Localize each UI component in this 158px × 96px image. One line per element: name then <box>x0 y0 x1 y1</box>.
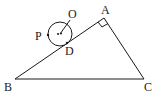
side-ab <box>15 18 104 79</box>
label-p: P <box>35 29 42 43</box>
label-a: A <box>101 3 110 17</box>
circle-group <box>48 20 72 46</box>
triangle-abc <box>15 18 144 79</box>
label-d: D <box>65 44 74 58</box>
points <box>47 33 68 45</box>
center-dot-2 <box>60 33 62 35</box>
geometry-diagram: A B C D O P <box>0 0 158 96</box>
label-o: O <box>68 7 77 21</box>
label-c: C <box>144 80 152 94</box>
label-b: B <box>4 80 12 94</box>
center-dot <box>57 33 59 35</box>
side-ac <box>104 18 144 79</box>
right-angle-marker <box>98 22 108 27</box>
point-p <box>47 34 49 36</box>
